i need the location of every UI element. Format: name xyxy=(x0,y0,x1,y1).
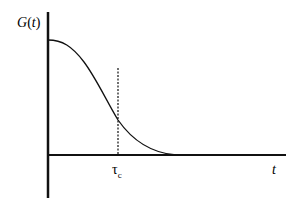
correlation-function-diagram: G(t) τc t xyxy=(0,0,301,208)
g-t-curve xyxy=(48,40,176,155)
x-axis-label: t xyxy=(272,163,276,177)
plot-svg xyxy=(0,0,301,208)
y-axis-label: G(t) xyxy=(17,16,40,30)
tau-c-label: τc xyxy=(112,163,122,180)
